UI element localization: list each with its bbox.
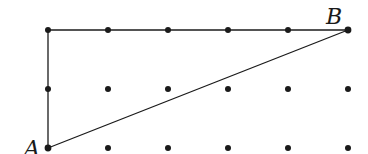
grid-diagram: A B [0,0,368,154]
grid-dot [45,86,51,92]
grid-dot [345,145,351,151]
point-a [45,145,52,152]
grid-dot [105,145,111,151]
segments [48,30,348,148]
grid-dot [105,27,111,33]
grid-dot [165,27,171,33]
diagram-canvas: A B [0,0,368,154]
grid-dot [345,86,351,92]
point-label-a: A [22,136,40,154]
grid-dot [165,86,171,92]
point-b [345,27,352,34]
segment-2 [48,30,348,148]
grid-dot [45,27,51,33]
grid-dot [285,145,291,151]
grid-dot [225,145,231,151]
grid-dot [165,145,171,151]
grid-dot [225,27,231,33]
point-label-b: B [325,4,342,29]
grid-dot [285,86,291,92]
grid-dot [225,86,231,92]
grid-dot [285,27,291,33]
grid-dot [105,86,111,92]
